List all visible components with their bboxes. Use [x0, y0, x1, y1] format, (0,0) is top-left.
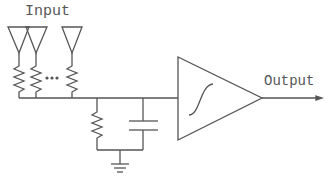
- input-resistor-2-icon: [31, 63, 41, 98]
- input-antenna-2-icon: [26, 27, 47, 63]
- sigmoid-amplifier-icon: [178, 57, 262, 140]
- ellipsis-icon: [45, 76, 58, 79]
- ground-icon: [111, 150, 129, 172]
- shunt-capacitor-icon: [129, 98, 158, 150]
- input-resistor-n-icon: [67, 63, 77, 98]
- input-antenna-1-icon: [8, 27, 29, 63]
- circuit-schematic: [0, 0, 332, 185]
- input-antenna-n-icon: [62, 27, 82, 63]
- output-arrow-icon: [262, 96, 322, 100]
- input-resistor-1-icon: [14, 63, 24, 98]
- shunt-resistor-icon: [92, 98, 102, 150]
- neuron-circuit-diagram: Input Output: [0, 0, 332, 185]
